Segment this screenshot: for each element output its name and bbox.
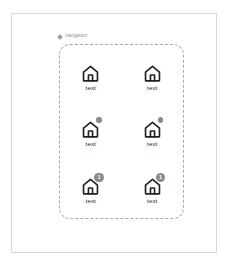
nav-item-label: text [86,141,96,147]
nav-item-icon-wrap [78,61,104,83]
annotation: navigation [58,32,87,41]
home-icon [143,120,162,139]
home-icon [81,120,100,139]
nav-item-5[interactable]: 1 text [68,174,114,204]
nav-item-icon-wrap: 1 [139,174,165,196]
nav-item-3[interactable]: text [68,117,114,147]
home-icon [81,64,100,83]
nav-item-label: text [147,141,157,147]
nav-item-icon-wrap [139,61,165,83]
navigation-grid: text text text [60,45,183,218]
notification-dot-badge [158,117,163,122]
navigation-container: text text text [59,44,184,219]
nav-item-4[interactable]: text [129,117,175,147]
nav-item-icon-wrap: 1 [78,174,104,196]
annotation-label: navigation [65,34,87,39]
notification-dot-badge [96,117,101,122]
nav-item-icon-wrap [78,117,104,139]
notification-count-badge: 1 [94,173,104,183]
nav-item-label: text [86,198,96,204]
nav-item-label: text [86,85,96,91]
nav-item-1[interactable]: text [68,61,114,91]
diamond-marker-icon [57,34,63,40]
notification-count-badge: 1 [156,173,166,183]
nav-item-6[interactable]: 1 text [129,174,175,204]
nav-item-label: text [147,198,157,204]
home-icon [143,64,162,83]
nav-item-2[interactable]: text [129,61,175,91]
nav-item-icon-wrap [139,117,165,139]
nav-item-label: text [147,85,157,91]
